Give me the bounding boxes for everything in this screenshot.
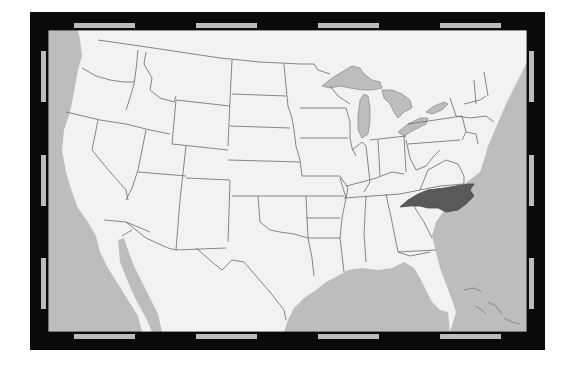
us-locator-map xyxy=(0,0,571,373)
frame-gray-bars-left xyxy=(41,51,46,309)
frame-gray-bars-right xyxy=(529,51,534,309)
lake-michigan xyxy=(358,94,370,138)
